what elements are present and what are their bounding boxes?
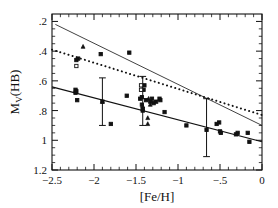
x-tick-label: −.5	[213, 174, 228, 186]
marker-filled-square	[143, 84, 146, 87]
marker-open-square	[139, 84, 142, 87]
marker-filled-square	[246, 131, 249, 134]
marker-filled-square	[185, 124, 188, 127]
marker-filled-square	[205, 128, 208, 131]
y-tick-label: .8	[39, 105, 48, 117]
figure-container: MV(HB) −2.5−2−1.5−1−.50.2.4.6.811.2 [Fe/…	[0, 0, 278, 208]
marker-filled-square	[219, 131, 222, 134]
plot-canvas: MV(HB) −2.5−2−1.5−1−.50.2.4.6.811.2 [Fe/…	[0, 0, 278, 208]
error-bars-layer	[99, 76, 210, 156]
marker-filled-square	[140, 96, 143, 99]
x-axis-title: [Fe/H]	[140, 189, 175, 204]
y-axis-title-group: MV(HB)	[7, 70, 24, 115]
marker-filled-square	[218, 121, 221, 124]
thin-solid-upper-line	[55, 24, 262, 125]
x-tick-label: −1	[172, 174, 184, 186]
marker-filled-triangle	[81, 44, 85, 48]
y-tick-label: .6	[39, 75, 48, 87]
axes-layer	[52, 14, 262, 170]
data-points-layer	[74, 44, 251, 143]
marker-filled-square	[125, 94, 128, 97]
dotted-line	[52, 50, 262, 115]
x-tick-label: −2	[88, 174, 100, 186]
x-tick-label: 0	[259, 174, 265, 186]
marker-filled-square	[128, 51, 131, 54]
marker-filled-square	[75, 58, 78, 61]
marker-open-square	[139, 88, 142, 91]
trend-lines-layer	[52, 24, 262, 141]
marker-filled-square	[99, 52, 102, 55]
marker-filled-square	[236, 131, 239, 134]
y-tick-label: 1	[42, 134, 48, 146]
marker-filled-square	[141, 109, 144, 112]
marker-filled-square	[155, 100, 158, 103]
y-tick-label: .4	[39, 45, 48, 57]
y-tick-label: .2	[39, 15, 47, 27]
plot-frame	[52, 14, 262, 170]
series-open-squares	[75, 64, 143, 91]
y-tick-label: 1.2	[33, 164, 47, 176]
marker-filled-triangle	[146, 122, 150, 126]
marker-filled-triangle	[146, 116, 150, 120]
marker-filled-square	[76, 99, 79, 102]
marker-filled-square	[109, 122, 112, 125]
y-axis-title: MV(HB)	[7, 70, 24, 115]
marker-filled-square	[159, 99, 162, 102]
solid-fit-line	[52, 87, 262, 142]
marker-open-square	[75, 64, 78, 67]
marker-filled-square	[75, 90, 78, 93]
y-axis-title-tail: (HB)	[7, 70, 22, 97]
marker-filled-square	[150, 97, 153, 100]
marker-filled-square	[163, 110, 166, 113]
y-axis-title-main: M	[7, 102, 22, 114]
x-tick-label: −1.5	[126, 174, 146, 186]
marker-filled-square	[248, 140, 251, 143]
